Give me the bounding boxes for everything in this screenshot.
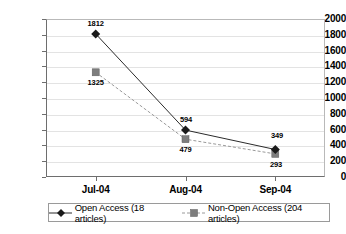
data-point-label: 1812	[88, 19, 104, 28]
x-axis-tick	[96, 177, 97, 181]
x-axis-tick	[275, 177, 276, 181]
data-point-label: 479	[179, 145, 191, 154]
data-point-label: 349	[271, 131, 283, 140]
data-point-label: 293	[270, 160, 282, 169]
line-chart: 2000 1800 1600 1400 1200 1000 800 600 40…	[0, 0, 346, 234]
series-layer	[0, 0, 346, 234]
data-point-marker	[182, 136, 189, 143]
data-point-label: 1325	[88, 78, 104, 87]
data-point-marker	[92, 69, 99, 76]
legend-item-open-access[interactable]: Open Access (18 articles)	[49, 202, 172, 224]
x-axis-tick	[186, 177, 187, 181]
legend-label: Open Access (18 articles)	[75, 202, 173, 224]
legend-marker-square-icon	[182, 208, 205, 218]
legend-label: Non-Open Access (204 articles)	[208, 202, 329, 224]
data-point-label: 594	[180, 115, 192, 124]
x-axis-label: Sep-04	[240, 184, 310, 195]
x-axis-label: Aug-04	[151, 184, 221, 195]
chart-legend: Open Access (18 articles) Non-Open Acces…	[48, 203, 330, 222]
x-axis-label: Jul-04	[61, 184, 131, 195]
legend-item-non-open-access[interactable]: Non-Open Access (204 articles)	[182, 202, 329, 224]
series-open-access	[91, 29, 280, 154]
legend-marker-diamond-icon	[49, 208, 72, 218]
